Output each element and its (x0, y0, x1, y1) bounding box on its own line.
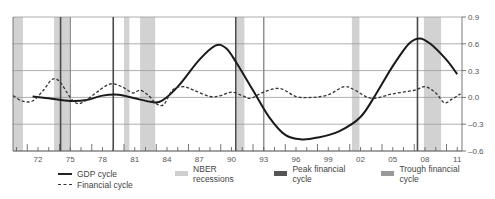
x-tick-label: 78 (98, 155, 107, 164)
legend-label: GDP cycle (77, 169, 117, 179)
legend-item-trough-financial-cycle: Trough financial cycle (381, 164, 477, 184)
trough-swatch-icon (381, 171, 394, 176)
y-tick-label: 0.6 (468, 40, 480, 49)
recession-band (352, 17, 360, 151)
dashed-line-swatch-icon (58, 184, 72, 185)
y-tick-label: 0.3 (468, 67, 480, 76)
recession-band (140, 17, 155, 151)
legend-item-nber-recessions: NBER recessions (175, 164, 256, 184)
legend-item-financial-cycle: Financial cycle (58, 180, 133, 190)
y-tick-label: 0.0 (468, 93, 480, 102)
x-tick-label: 84 (163, 155, 172, 164)
recession-band (13, 17, 23, 151)
peak-swatch-icon (274, 171, 287, 176)
legend-item-peak-financial-cycle: Peak financial cycle (274, 164, 363, 184)
legend-label: Financial cycle (77, 180, 133, 190)
x-tick-label: 72 (34, 155, 43, 164)
recession-band (237, 17, 245, 151)
x-tick-label: 81 (130, 155, 139, 164)
y-tick-label: –0.3 (468, 120, 484, 129)
legend-label: NBER recessions (193, 164, 256, 184)
legend-label: Peak financial cycle (292, 164, 363, 184)
recession-swatch-icon (175, 171, 188, 176)
y-tick-label: –0.6 (468, 147, 484, 156)
x-tick-label: 75 (66, 155, 75, 164)
legend: GDP cycle NBER recessions Peak financial… (58, 168, 495, 190)
solid-line-swatch-icon (58, 173, 72, 175)
legend-label: Trough financial cycle (399, 164, 477, 184)
recession-band (124, 17, 129, 151)
recession-band (424, 17, 441, 151)
x-tick-label: 93 (259, 155, 268, 164)
y-tick-label: 0.9 (468, 13, 480, 22)
legend-item-gdp-cycle: GDP cycle (58, 169, 157, 179)
